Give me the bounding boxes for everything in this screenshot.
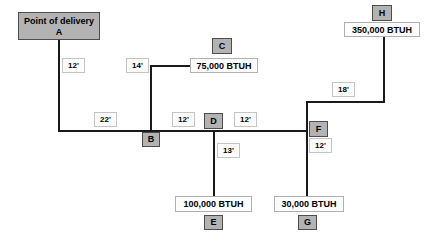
node-a-label-line1: Point of delivery [24, 16, 94, 26]
load-h-value: 350,000 BTUH [352, 25, 412, 35]
load-c-btuh: 75,000 BTUH [190, 58, 258, 73]
length-label-f-to-g: 12' [309, 138, 332, 153]
load-e-btuh: 100,000 BTUH [175, 196, 252, 212]
node-f-label: F [316, 124, 322, 134]
node-g[interactable]: G [298, 215, 317, 230]
pipe-h-drop [383, 36, 385, 102]
length-a-drop-value: 12' [68, 61, 79, 70]
pipe-f-to-h-run [306, 101, 385, 103]
node-d-label: D [210, 116, 217, 126]
node-b-label: B [148, 134, 155, 144]
length-label-a-drop: 12' [62, 58, 85, 73]
length-d-to-f-value: 12' [240, 115, 251, 124]
pipe-main-trunk [58, 130, 307, 132]
node-h-label: H [379, 8, 386, 18]
node-a-label-line2: A [56, 27, 63, 37]
pipe-d-to-e [213, 130, 215, 197]
load-e-value: 100,000 BTUH [183, 199, 243, 209]
node-e-label: E [210, 217, 216, 227]
pipe-f-riser [306, 101, 308, 197]
gas-piping-diagram: Point of delivery A C 75,000 BTUH H 350,… [0, 0, 435, 243]
length-label-b-to-d: 12' [172, 112, 195, 127]
node-c[interactable]: C [212, 38, 232, 54]
length-f-to-h-value: 18' [338, 85, 349, 94]
load-c-value: 75,000 BTUH [196, 61, 251, 71]
load-h-btuh: 350,000 BTUH [344, 22, 420, 37]
load-g-btuh: 30,000 BTUH [274, 196, 344, 212]
node-g-label: G [304, 217, 311, 227]
length-label-d-to-f: 12' [234, 112, 257, 127]
node-a-point-of-delivery[interactable]: Point of delivery A [18, 12, 100, 40]
node-f[interactable]: F [309, 121, 328, 137]
pipe-a-drop [58, 40, 60, 131]
length-a-to-b-value: 22' [100, 115, 111, 124]
length-label-f-to-h: 18' [332, 82, 355, 97]
node-d[interactable]: D [204, 113, 223, 129]
pipe-c-run [150, 65, 192, 67]
length-f-to-g-value: 12' [315, 141, 326, 150]
node-c-label: C [219, 41, 226, 51]
pipe-c-riser [150, 65, 152, 131]
length-c-riser-value: 14' [132, 61, 143, 70]
load-g-value: 30,000 BTUH [281, 199, 336, 209]
length-b-to-d-value: 12' [178, 115, 189, 124]
length-label-a-to-b: 22' [94, 112, 117, 127]
node-e[interactable]: E [204, 215, 223, 230]
length-label-c-riser: 14' [126, 58, 149, 73]
length-d-to-e-value: 13' [223, 146, 234, 155]
node-h[interactable]: H [372, 5, 392, 21]
length-label-d-to-e: 13' [217, 143, 240, 158]
node-b[interactable]: B [142, 132, 160, 147]
